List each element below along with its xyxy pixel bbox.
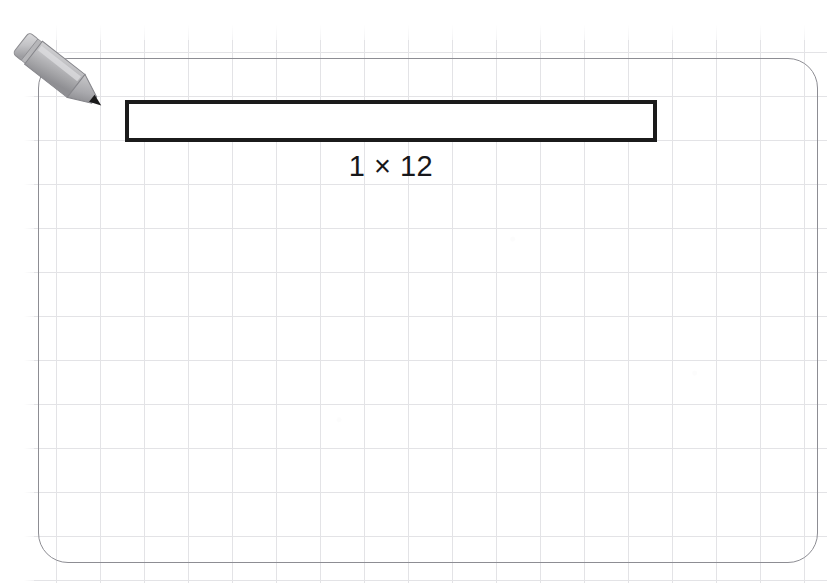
worksheet-canvas: 1 × 12 bbox=[0, 0, 827, 583]
array-rectangle[interactable] bbox=[125, 100, 657, 142]
array-label: 1 × 12 bbox=[125, 150, 657, 182]
